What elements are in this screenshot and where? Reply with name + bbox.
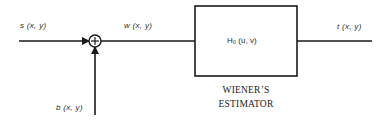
caption-line-2: ESTIMATOR [191,97,301,111]
filter-transfer-function-label: H₀ (u, v) [227,36,257,45]
summed-signal-label: w (x, y) [124,21,152,30]
caption-line-1: WIENER’S [191,83,301,97]
output-signal-label: t (x, y) [337,22,362,31]
input-signal-label: s (x, y) [20,21,46,30]
wiener-estimator-block-diagram: s (x, y) w (x, y) t (x, y) b (x, y) H₀ (… [0,0,390,120]
noise-signal-label: b (x, y) [56,103,83,112]
filter-caption: WIENER’S ESTIMATOR [191,83,301,111]
